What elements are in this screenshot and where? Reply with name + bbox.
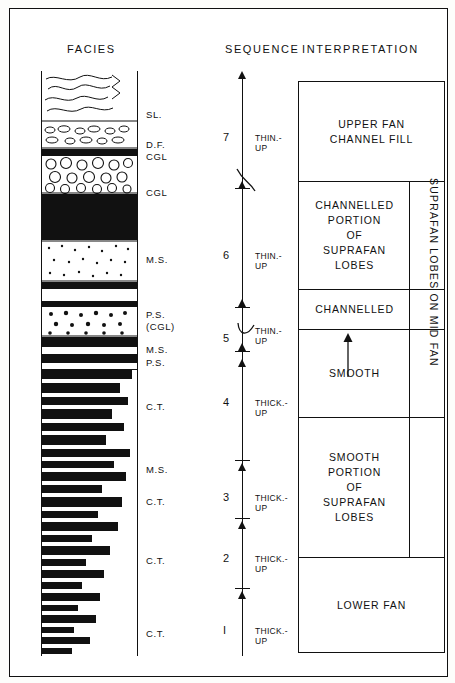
- figure-frame: FACIES SEQUENCE INTERPRETATION: [9, 8, 448, 677]
- interpretation-box: SMOOTHPORTIONOFSUPRAFANLOBES: [299, 418, 444, 558]
- turbidite-bed: [42, 648, 72, 654]
- sequence-trend-label: THIN.-UP: [255, 251, 282, 271]
- conglomerate-pattern-2: [42, 156, 137, 194]
- unit-arrow: [238, 521, 246, 529]
- cycle-curve-icon: [235, 167, 265, 195]
- facies-label: C.T.: [146, 401, 165, 412]
- slump-facies-pattern: [42, 71, 137, 123]
- sandstone-bed: [42, 355, 137, 362]
- sequence-unit-number: 3: [223, 491, 229, 503]
- sequence-trend-label: THICK.-UP: [255, 626, 288, 646]
- turbidite-bed: [42, 449, 130, 457]
- sequence-unit-number: 2: [223, 552, 229, 564]
- unit-boundary-tick: [235, 460, 250, 461]
- facies-label: C.T.: [146, 555, 165, 566]
- turbidite-bed: [42, 383, 120, 393]
- sequence-unit-number: 4: [223, 396, 229, 408]
- interpretation-box-label: CHANNELLED: [315, 302, 394, 317]
- turbidite-bed: [42, 409, 112, 419]
- turbidite-bed: [42, 546, 110, 555]
- sequence-axis-arrow: [238, 71, 246, 79]
- turbidite-bed: [42, 435, 106, 445]
- sequence-trend-label: THIN.-UP: [255, 133, 282, 153]
- interpretation-box-label: SMOOTHPORTIONOFSUPRAFANLOBES: [323, 450, 386, 525]
- turbidite-bed: [42, 605, 78, 611]
- facies-label: P.S.: [146, 309, 165, 320]
- sandstone-bed: [42, 149, 137, 156]
- turbidite-bed: [42, 637, 90, 644]
- turbidite-bed: [42, 423, 124, 431]
- conglomerate-pattern-1: [42, 123, 137, 149]
- pebbly-sandstone-pattern: [42, 307, 137, 337]
- facies-label: C.T.: [146, 496, 165, 507]
- smooth-to-channelled-arrow-icon: [341, 332, 355, 378]
- sequence-unit-number: 5: [223, 332, 229, 344]
- sequence-trend-label: THICK.-UP: [255, 493, 288, 513]
- turbidite-bed: [42, 497, 122, 507]
- facies-label: M.S.: [146, 254, 168, 265]
- turbidite-bed: [42, 511, 98, 518]
- facies-label: CGL: [146, 151, 167, 162]
- massive-sandstone-pattern: [42, 240, 137, 282]
- sandstone-bed: [42, 194, 114, 240]
- turbidite-bed: [42, 570, 104, 578]
- interpretation-column: UPPER FANCHANNEL FILLCHANNELLEDPORTIONOF…: [298, 81, 445, 653]
- siltstone-bed: [42, 288, 137, 302]
- interpretation-box: UPPER FANCHANNEL FILL: [299, 82, 444, 182]
- column-header-sequence: SEQUENCE: [225, 43, 300, 55]
- turbidite-bed: [42, 535, 92, 542]
- turbidite-bed: [42, 559, 86, 566]
- turbidite-bed: [42, 461, 114, 468]
- interpretation-box-label: UPPER FANCHANNEL FILL: [330, 117, 413, 147]
- column-header-interpretation: INTERPRETATION: [302, 43, 419, 55]
- turbidite-bed: [42, 582, 82, 589]
- facies-label: P.S.: [146, 357, 165, 368]
- unit-boundary-tick: [235, 518, 250, 519]
- turbidite-bed: [42, 593, 100, 601]
- siltstone-bed: [42, 346, 137, 355]
- interpretation-box: LOWER FAN: [299, 558, 444, 652]
- facies-label: C.T.: [146, 628, 165, 639]
- sequence-trend-label: THIN.-UP: [255, 326, 282, 346]
- turbidite-bed: [42, 615, 96, 623]
- sequence-axis-line: [242, 79, 243, 656]
- facies-label: D.F.: [146, 139, 165, 150]
- sequence-column: 765432I THIN.-UPTHIN.-UPTHIN.-UPTHICK.-U…: [215, 71, 300, 656]
- turbidite-bed: [42, 522, 118, 531]
- unit-arrow: [238, 343, 246, 351]
- interpretation-box-label: CHANNELLEDPORTIONOFSUPRAFANLOBES: [315, 198, 394, 273]
- facies-label: SL.: [146, 109, 162, 120]
- unit-boundary-tick: [235, 351, 250, 352]
- unit-boundary-tick: [235, 588, 250, 589]
- sequence-unit-number: 7: [223, 131, 229, 143]
- sequence-trend-label: THICK.-UP: [255, 554, 288, 574]
- unit-arrow: [238, 299, 246, 307]
- stratigraphic-log-column: [41, 71, 138, 656]
- facies-label: (CGL): [146, 321, 175, 332]
- siltstone-bed: [42, 362, 137, 370]
- turbidite-bed: [42, 485, 102, 493]
- turbidite-bed: [42, 627, 74, 633]
- sequence-unit-number: I: [223, 624, 226, 636]
- suprafan-side-label: SUPRAFAN LOBES ON MID FAN: [410, 178, 440, 367]
- sequence-unit-number: 6: [223, 249, 229, 261]
- sandstone-bed: [42, 337, 137, 346]
- interpretation-box-label: LOWER FAN: [337, 598, 406, 613]
- facies-label: M.S.: [146, 344, 168, 355]
- unit-arrow: [238, 359, 246, 367]
- unit-boundary-tick: [235, 307, 250, 308]
- turbidite-bed: [42, 397, 128, 405]
- sequence-trend-label: THICK.-UP: [255, 398, 288, 418]
- facies-label: M.S.: [146, 464, 168, 475]
- turbidite-bed: [42, 370, 132, 379]
- turbidite-bed: [42, 472, 126, 481]
- unit-arrow: [238, 591, 246, 599]
- figure-page: FACIES SEQUENCE INTERPRETATION: [0, 0, 455, 683]
- unit-arrow: [238, 463, 246, 471]
- column-header-facies: FACIES: [67, 43, 116, 55]
- facies-label: CGL: [146, 187, 167, 198]
